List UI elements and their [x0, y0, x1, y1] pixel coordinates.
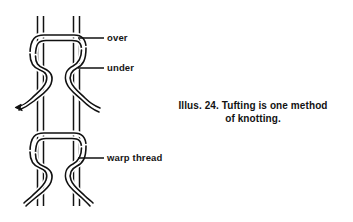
upper-tufting-knot — [19, 35, 100, 112]
figure-caption-line-2: of knotting. — [163, 112, 343, 125]
warp-threads-group — [38, 16, 80, 206]
illustration-figure: over under warp thread Illus. 24. Tuftin… — [0, 0, 353, 222]
lower-tufting-knot — [24, 133, 93, 206]
callout-label-over: over — [107, 33, 128, 43]
callout-label-warp-thread: warp thread — [107, 153, 163, 163]
figure-caption-line-1: Illus. 24. Tufting is one method — [163, 99, 343, 112]
figure-caption: Illus. 24. Tufting is one method of knot… — [163, 99, 343, 125]
callout-label-under: under — [107, 63, 134, 73]
